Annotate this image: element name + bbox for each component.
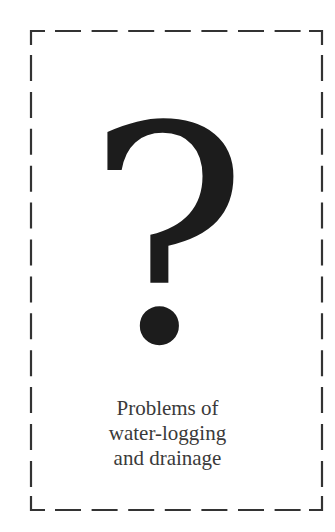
caption-line-3: and drainage (0, 446, 335, 471)
caption-line-2: water-logging (0, 421, 335, 446)
frame-corner-bottom-left (31, 496, 45, 510)
frame-corner-top-left (31, 31, 45, 45)
frame-corner-top-right (309, 31, 322, 45)
caption: Problems of water-logging and drainage (0, 396, 335, 471)
frame-corner-bottom-right (309, 496, 322, 510)
caption-line-1: Problems of (0, 396, 335, 421)
question-mark-icon: ? (0, 88, 335, 388)
